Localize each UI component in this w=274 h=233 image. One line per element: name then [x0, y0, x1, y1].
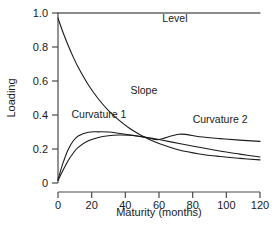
y-tick-label: 0.6	[33, 75, 48, 87]
y-tick-marks	[52, 13, 58, 183]
curve-label-curvature-2: Curvature 2	[193, 113, 248, 125]
y-tick-label: 0.8	[33, 41, 48, 53]
x-tick-label: 100	[217, 199, 235, 211]
x-tick-label: 120	[251, 199, 269, 211]
y-tick-labels: 00.20.40.60.81.0	[33, 7, 48, 189]
x-tick-marks	[58, 192, 260, 198]
y-tick-label: 0.2	[33, 143, 48, 155]
curve-slope	[58, 18, 260, 160]
y-tick-label: 0.4	[33, 109, 48, 121]
curve-annotations: LevelSlopeCurvature 1Curvature 2	[71, 12, 247, 125]
x-tick-label: 0	[55, 199, 61, 211]
y-tick-label: 1.0	[33, 7, 48, 19]
curve-label-level: Level	[162, 12, 187, 24]
curve-label-slope: Slope	[130, 84, 157, 96]
x-tick-label: 20	[86, 199, 98, 211]
chart-figure: 00.20.40.60.81.0 020406080100120 LevelSl…	[0, 0, 274, 233]
chart-svg: 00.20.40.60.81.0 020406080100120 LevelSl…	[0, 0, 274, 233]
data-curves	[58, 13, 260, 180]
curve-label-curvature-1: Curvature 1	[71, 108, 126, 120]
y-axis-label: Loading	[5, 78, 17, 117]
x-axis-label: Maturity (months)	[116, 206, 202, 218]
y-tick-label: 0	[42, 177, 48, 189]
